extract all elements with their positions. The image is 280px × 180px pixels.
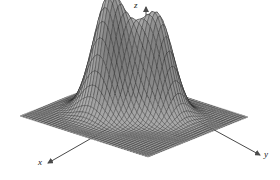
y-axis-label: y	[264, 150, 268, 159]
surface-plot-canvas	[0, 0, 280, 180]
surface-mesh	[20, 0, 248, 157]
x-axis-label: x	[38, 158, 42, 167]
surface-plot-figure: z x y	[0, 0, 280, 180]
z-axis-label: z	[134, 1, 138, 10]
